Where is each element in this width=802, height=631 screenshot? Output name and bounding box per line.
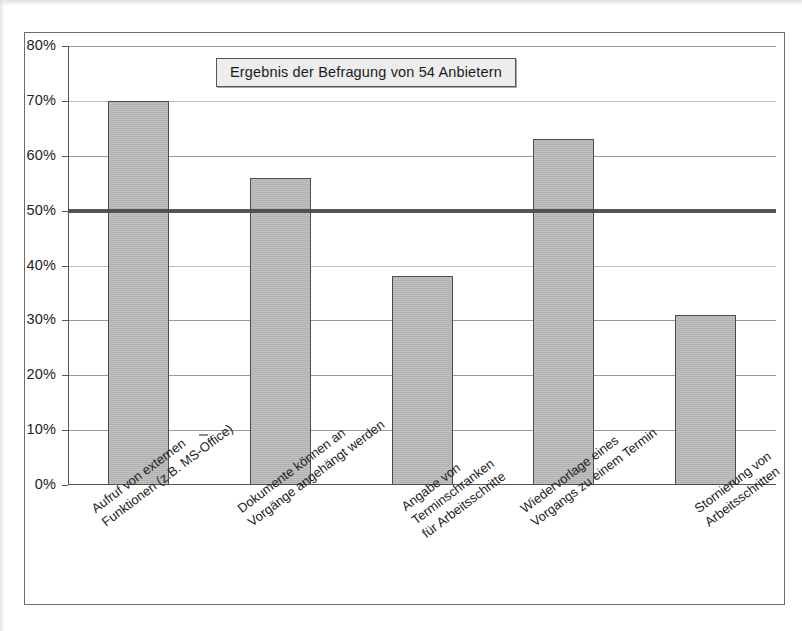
y-tick-mark-40pct	[62, 266, 68, 267]
y-tick-label-50pct: 50%	[26, 202, 56, 218]
bar-2	[250, 178, 311, 485]
bar-1	[108, 101, 169, 485]
y-tick-label-40pct: 40%	[26, 257, 56, 273]
bar-3	[392, 276, 453, 485]
y-tick-mark-30pct	[62, 320, 68, 321]
y-tick-label-80pct: 80%	[26, 37, 56, 53]
y-tick-mark-20pct	[62, 375, 68, 376]
bar-4	[533, 139, 594, 485]
chart-title: Ergebnis der Befragung von 54 Anbietern	[216, 58, 516, 87]
y-tick-mark-70pct	[62, 101, 68, 102]
gridline-40pct	[68, 266, 776, 267]
plot-inner	[68, 46, 776, 485]
gridline-70pct	[68, 101, 776, 102]
scan-edge-artifact-left	[0, 0, 5, 631]
y-tick-mark-80pct	[62, 46, 68, 47]
scan-speck-artifact	[199, 434, 208, 436]
y-tick-label-20pct: 20%	[26, 366, 56, 382]
gridline-60pct	[68, 156, 776, 157]
y-tick-label-70pct: 70%	[26, 92, 56, 108]
y-tick-label-10pct: 10%	[26, 421, 56, 437]
gridline-80pct	[68, 46, 776, 47]
scan-edge-artifact-top	[0, 0, 802, 6]
y-tick-label-0pct: 0%	[35, 476, 56, 492]
bar-chart-plot-area	[68, 46, 776, 485]
y-tick-mark-60pct	[62, 156, 68, 157]
threshold-line-50-percent	[68, 209, 776, 213]
y-tick-label-60pct: 60%	[26, 147, 56, 163]
y-tick-mark-50pct	[62, 211, 68, 212]
bar-5	[675, 315, 736, 485]
y-tick-label-30pct: 30%	[26, 311, 56, 327]
y-axis-line	[68, 46, 69, 485]
y-tick-mark-0pct	[62, 485, 68, 486]
y-tick-mark-10pct	[62, 430, 68, 431]
